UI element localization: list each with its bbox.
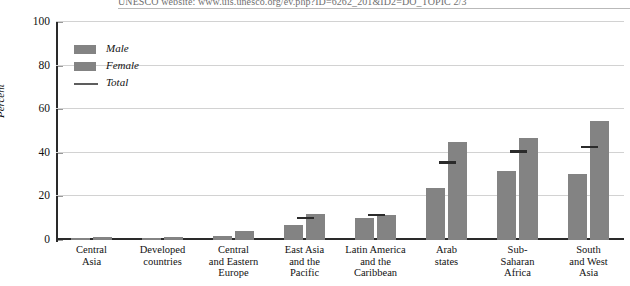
x-label-line: South <box>545 244 630 256</box>
legend-label: Female <box>106 59 139 71</box>
x-label-line: and West <box>545 256 630 268</box>
x-label-south-and-west-asia: Southand WestAsia <box>545 244 630 279</box>
y-tick-label-20: 20 <box>14 189 50 201</box>
x-label-line: Asia <box>545 267 630 279</box>
y-tick-mark-0 <box>58 240 63 241</box>
x-label-line: Caribbean <box>332 267 419 279</box>
y-axis-title: Percent <box>0 84 6 118</box>
y-tick-mark-40 <box>58 153 63 154</box>
legend-item-female: Female <box>74 59 194 74</box>
x-axis-category-labels: CentralAsiaDevelopedcountriesCentraland … <box>56 244 624 286</box>
total-line-swatch <box>74 83 98 85</box>
chart-legend: MaleFemaleTotal <box>74 42 194 93</box>
chart-figure: UNESCO website: www.uis.unesco.org/ev.ph… <box>0 0 630 286</box>
y-tick-label-60: 60 <box>14 102 50 114</box>
legend-item-male: Male <box>74 42 194 57</box>
y-tick-label-40: 40 <box>14 146 50 158</box>
legend-item-total: Total <box>74 76 194 91</box>
y-tick-label-0: 0 <box>14 233 50 245</box>
y-tick-mark-100 <box>58 22 63 23</box>
y-tick-mark-60 <box>58 109 63 110</box>
legend-label: Total <box>106 76 128 88</box>
y-tick-label-80: 80 <box>14 59 50 71</box>
female-swatch <box>74 62 96 71</box>
y-tick-mark-80 <box>58 66 63 67</box>
male-swatch <box>74 45 96 54</box>
legend-label: Male <box>106 42 129 54</box>
y-tick-mark-20 <box>58 196 63 197</box>
y-tick-label-100: 100 <box>14 15 50 27</box>
